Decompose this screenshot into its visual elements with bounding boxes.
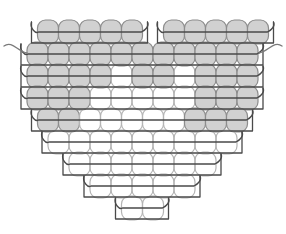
bead-pattern-canvas	[0, 0, 286, 234]
heart-bead-diagram	[0, 0, 286, 234]
